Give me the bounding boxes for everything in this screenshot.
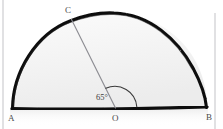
vertex-label-c: C (65, 6, 71, 15)
vertex-label-b: B (206, 113, 212, 122)
geometry-diagram-canvas: A B O C 65° (0, 0, 223, 129)
semicircle-figure (0, 0, 223, 129)
angle-value-label: 65° (96, 93, 108, 102)
baseline-shadow (10, 108, 208, 126)
vertex-label-o: O (112, 114, 119, 123)
vertex-label-a: A (8, 114, 15, 123)
